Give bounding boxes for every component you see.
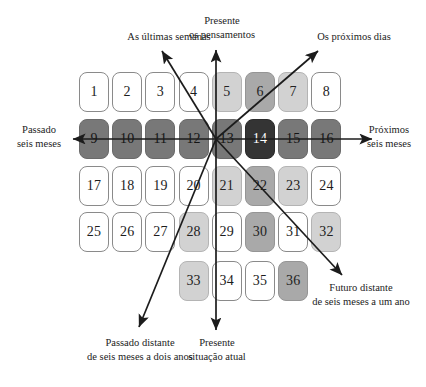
label-bottom-right: Futuro distante de seis meses a um ano [297, 281, 425, 309]
label-bottom-center: Presente situação atual [171, 336, 263, 364]
grid-cell-label: 23 [286, 179, 300, 193]
grid-cell-label: 7 [290, 85, 297, 99]
grid-cell-28[interactable]: 28 [179, 212, 209, 252]
grid-cell-label: 24 [319, 179, 333, 193]
label-bottom-center-line-1: Presente [171, 336, 263, 350]
grid-cell-label: 32 [319, 225, 333, 239]
grid-cell-2[interactable]: 2 [112, 72, 142, 112]
grid-cell-label: 21 [220, 179, 234, 193]
grid-cell-8[interactable]: 8 [311, 72, 341, 112]
grid-cell-12[interactable]: 12 [179, 119, 209, 159]
grid-cell-4[interactable]: 4 [179, 72, 209, 112]
grid-cell-label: 29 [220, 225, 234, 239]
grid-cell-label: 3 [157, 85, 164, 99]
grid-cell-26[interactable]: 26 [112, 212, 142, 252]
diagram-canvas: 1234567891011121314151617181920212223242… [0, 0, 426, 387]
label-right-line-2: seis meses [355, 137, 423, 151]
grid-cell-23[interactable]: 23 [278, 166, 308, 206]
grid-cell-9[interactable]: 9 [79, 119, 109, 159]
label-top-right-line-1: Os próximos dias [297, 30, 411, 44]
grid-cell-label: 4 [190, 85, 197, 99]
grid-cell-19[interactable]: 19 [145, 166, 175, 206]
grid-cell-1[interactable]: 1 [79, 72, 109, 112]
grid-cell-label: 6 [256, 85, 263, 99]
grid-cell-label: 34 [220, 274, 234, 288]
grid-cell-11[interactable]: 11 [145, 119, 175, 159]
grid-cell-21[interactable]: 21 [212, 166, 242, 206]
grid-cell-label: 12 [186, 132, 200, 146]
label-top-center-line-1: Presente [176, 14, 268, 28]
grid-cell-18[interactable]: 18 [112, 166, 142, 206]
grid-cell-14[interactable]: 14 [245, 119, 275, 159]
grid-cell-label: 2 [124, 85, 131, 99]
label-bottom-right-line-2: de seis meses a um ano [297, 295, 425, 309]
grid-cell-label: 10 [120, 132, 134, 146]
grid-cell-label: 20 [186, 179, 200, 193]
grid-cell-13[interactable]: 13 [212, 119, 242, 159]
grid-cell-5[interactable]: 5 [212, 72, 242, 112]
grid-cell-label: 22 [253, 179, 267, 193]
grid-cell-30[interactable]: 30 [245, 212, 275, 252]
grid-cell-label: 8 [323, 85, 330, 99]
grid-cell-31[interactable]: 31 [278, 212, 308, 252]
grid-cell-24[interactable]: 24 [311, 166, 341, 206]
grid-cell-label: 25 [87, 225, 101, 239]
grid-cell-label: 15 [286, 132, 300, 146]
grid-cell-label: 17 [87, 179, 101, 193]
grid-cell-label: 33 [186, 274, 200, 288]
grid-cell-label: 14 [253, 132, 267, 146]
grid-cell-35[interactable]: 35 [245, 261, 275, 301]
label-top-right: Os próximos dias [297, 30, 411, 44]
label-left-line-1: Passado [6, 123, 72, 137]
label-right-line-1: Próximos [355, 123, 423, 137]
grid-cell-label: 27 [153, 225, 167, 239]
grid-cell-20[interactable]: 20 [179, 166, 209, 206]
label-right: Próximos seis meses [355, 123, 423, 151]
grid-cell-34[interactable]: 34 [212, 261, 242, 301]
grid-cell-16[interactable]: 16 [311, 119, 341, 159]
grid-cell-15[interactable]: 15 [278, 119, 308, 159]
grid-cell-22[interactable]: 22 [245, 166, 275, 206]
axis-diagonal-downright-arrow [216, 139, 342, 275]
label-bottom-right-line-1: Futuro distante [297, 281, 425, 295]
label-left: Passado seis meses [6, 123, 72, 151]
label-bottom-center-line-2: situação atual [171, 350, 263, 364]
grid-cell-27[interactable]: 27 [145, 212, 175, 252]
grid-cell-label: 19 [153, 179, 167, 193]
grid-cell-label: 31 [286, 225, 300, 239]
grid-cell-label: 5 [223, 85, 230, 99]
grid-cell-32[interactable]: 32 [311, 212, 341, 252]
grid-cell-label: 28 [186, 225, 200, 239]
grid-cell-6[interactable]: 6 [245, 72, 275, 112]
grid-cell-33[interactable]: 33 [179, 261, 209, 301]
grid-cell-17[interactable]: 17 [79, 166, 109, 206]
grid-cell-3[interactable]: 3 [145, 72, 175, 112]
grid-cell-7[interactable]: 7 [278, 72, 308, 112]
label-top-center-line-2: os pensamentos [176, 28, 268, 42]
grid-cell-label: 11 [153, 132, 167, 146]
label-top-center: Presente os pensamentos [176, 14, 268, 42]
grid-cell-25[interactable]: 25 [79, 212, 109, 252]
grid-cell-label: 1 [90, 85, 97, 99]
grid-cell-label: 16 [319, 132, 333, 146]
grid-cell-label: 13 [220, 132, 234, 146]
grid-cell-label: 35 [253, 274, 267, 288]
grid-cell-label: 30 [253, 225, 267, 239]
grid-cell-29[interactable]: 29 [212, 212, 242, 252]
grid-cell-label: 18 [120, 179, 134, 193]
grid-cell-10[interactable]: 10 [112, 119, 142, 159]
grid-cell-label: 9 [90, 132, 97, 146]
grid-cell-label: 26 [120, 225, 134, 239]
label-left-line-2: seis meses [6, 137, 72, 151]
